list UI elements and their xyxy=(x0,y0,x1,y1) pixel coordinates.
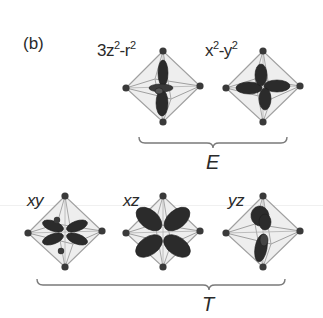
label-sup: 2 xyxy=(232,39,238,51)
orbital-label-xy: xy xyxy=(27,192,43,209)
panel-label: (b) xyxy=(23,35,44,52)
brace-t xyxy=(37,279,285,290)
orbital-label-yz: yz xyxy=(228,192,244,209)
brace-e xyxy=(139,137,287,148)
octahedron-3z2-r2 xyxy=(122,47,203,125)
label-part: x xyxy=(205,41,213,60)
orbital-label-x2-y2: x2-y2 xyxy=(205,42,237,59)
orbital-label-xz: xz xyxy=(123,192,139,209)
group-label-e: E xyxy=(206,152,219,172)
label-sup: 2 xyxy=(130,39,136,51)
label-part: 3z xyxy=(97,41,114,60)
label-part: -y xyxy=(219,41,232,60)
octahedron-x2-y2 xyxy=(222,47,303,125)
group-label-t: T xyxy=(202,294,214,314)
orbital-label-3z2-r2: 3z2-r2 xyxy=(97,42,136,59)
orbital-diagram xyxy=(0,0,323,318)
label-part: -r xyxy=(120,41,130,60)
